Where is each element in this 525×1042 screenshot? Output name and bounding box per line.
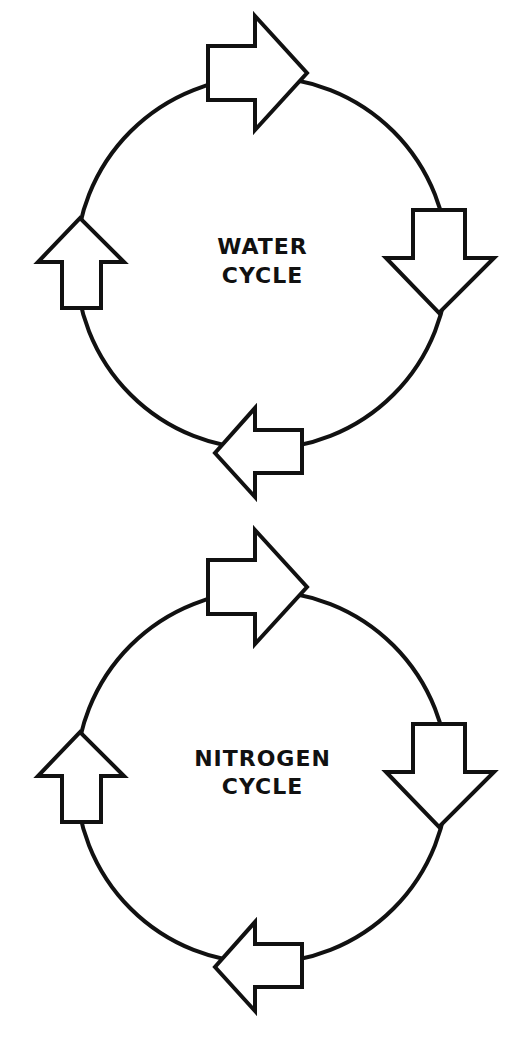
nitrogen-cycle-diagram: NITROGEN CYCLE xyxy=(0,514,525,1034)
arrow-left-icon xyxy=(215,408,302,497)
arrow-left-icon xyxy=(215,922,302,1011)
arrow-right-icon xyxy=(208,530,307,644)
diagram-title-line1: WATER xyxy=(0,232,525,261)
diagram-title-line2: CYCLE xyxy=(0,772,525,801)
arrow-right-icon xyxy=(208,16,307,130)
diagram-title-line2: CYCLE xyxy=(0,261,525,290)
water-cycle-diagram: WATER CYCLE xyxy=(0,0,525,520)
diagram-title-line1: NITROGEN xyxy=(0,744,525,773)
